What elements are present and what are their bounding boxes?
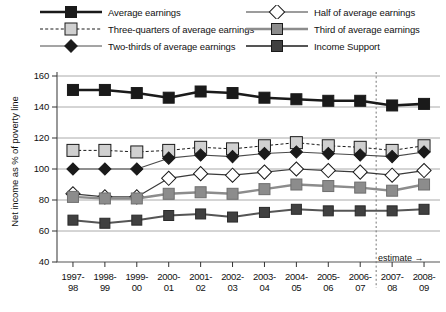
data-point (131, 193, 142, 204)
data-point (131, 163, 143, 175)
data-point (323, 95, 334, 106)
x-tick-label: 2003-04 (247, 271, 281, 293)
x-tick-label: 2008-09 (407, 271, 441, 293)
data-point (131, 88, 142, 99)
data-point (67, 144, 79, 156)
legend-item-average-earnings: Average earnings (40, 4, 181, 20)
x-tick-label: 2006-07 (343, 271, 377, 293)
data-point (99, 163, 111, 175)
data-point (227, 88, 238, 99)
x-tick-label: 2001-02 (184, 271, 218, 293)
data-point (225, 168, 239, 182)
data-point (196, 209, 206, 219)
data-point (99, 193, 110, 204)
data-point (291, 179, 302, 190)
data-series (68, 204, 429, 228)
data-point (163, 92, 174, 103)
data-point (419, 98, 430, 109)
x-tick-label: 1998-99 (88, 271, 122, 293)
data-point (67, 191, 78, 202)
y-tick-label: 100 (13, 163, 49, 174)
legend-label: Half of average earnings (314, 7, 415, 18)
legend-item-two-thirds: Two-thirds of average earnings (40, 38, 235, 54)
chart-legend: Average earnings Three-quarters of avera… (40, 4, 440, 56)
data-point (387, 185, 398, 196)
legend-label: Income Support (314, 41, 380, 52)
y-tick-label: 140 (13, 101, 49, 112)
legend-item-half: Half of average earnings (246, 4, 415, 20)
data-point (67, 84, 78, 95)
data-point (321, 163, 335, 177)
data-point (67, 163, 79, 175)
x-tick-label: 1999-00 (120, 271, 154, 293)
y-tick-label: 40 (13, 256, 49, 267)
data-point (99, 84, 110, 95)
data-point (164, 211, 174, 221)
data-point (385, 168, 399, 182)
legend-item-income-support: Income Support (246, 38, 380, 54)
data-point (291, 204, 301, 214)
data-point (195, 187, 206, 198)
x-tick-label: 2007-08 (375, 271, 409, 293)
legend-item-third: Third of average earnings (246, 21, 420, 37)
y-tick-label: 60 (13, 225, 49, 236)
legend-swatch-income-support (246, 39, 308, 53)
gridlines (57, 76, 440, 231)
data-point (419, 179, 430, 190)
data-point (228, 212, 238, 222)
y-tick-label: 120 (13, 132, 49, 143)
legend-swatch-third (246, 22, 308, 36)
data-point (353, 165, 367, 179)
data-point (387, 100, 398, 111)
data-point (99, 144, 111, 156)
data-point (289, 162, 303, 176)
data-point (355, 182, 366, 193)
data-point (355, 95, 366, 106)
data-point (259, 207, 269, 217)
data-point (419, 204, 429, 214)
data-point (68, 215, 78, 225)
data-point (355, 206, 365, 216)
legend-swatch-two-thirds (40, 39, 102, 53)
data-point (100, 218, 110, 228)
legend-swatch-average-earnings (40, 5, 102, 19)
estimate-annotation: estimate → (378, 253, 424, 263)
legend-label: Three-quarters of average earnings (108, 24, 254, 35)
legend-label: Third of average earnings (314, 24, 420, 35)
x-tick-label: 2000-01 (152, 271, 186, 293)
data-point (195, 86, 206, 97)
data-point (163, 188, 174, 199)
legend-swatch-half (246, 5, 308, 19)
data-point (387, 206, 397, 216)
data-series (67, 146, 430, 175)
data-point (132, 215, 142, 225)
data-point (227, 188, 238, 199)
data-point (259, 184, 270, 195)
data-point (291, 94, 302, 105)
data-point (323, 206, 333, 216)
x-tick-label: 2002-03 (216, 271, 250, 293)
axis-lines (57, 72, 440, 262)
data-point (323, 181, 334, 192)
x-tick-label: 1997-98 (56, 271, 90, 293)
plot-area: Net income as % of poverty line 40608010… (0, 60, 446, 312)
data-point (417, 163, 431, 177)
data-point (257, 165, 271, 179)
data-point (162, 171, 176, 185)
y-tick-label: 80 (13, 194, 49, 205)
legend-label: Average earnings (108, 7, 181, 18)
legend-item-three-quarters: Three-quarters of average earnings (40, 21, 254, 37)
legend-swatch-three-quarters (40, 22, 102, 36)
data-series-layer (66, 84, 431, 228)
data-point (131, 146, 143, 158)
legend-label: Two-thirds of average earnings (108, 41, 235, 52)
y-tick-label: 160 (13, 70, 49, 81)
data-point (259, 92, 270, 103)
x-tick-label: 2005-06 (311, 271, 345, 293)
x-tick-label: 2004-05 (279, 271, 313, 293)
chart-page: Average earnings Three-quarters of avera… (0, 0, 446, 312)
